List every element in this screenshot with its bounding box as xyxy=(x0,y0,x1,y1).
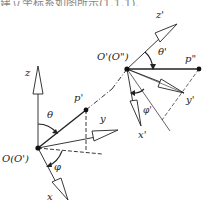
point-p-double-prime xyxy=(197,67,202,72)
origin-prime-label: O'(O") xyxy=(97,51,129,62)
coordinate-diagram: z y x O(O') p' θ φ z' y' x' O'(O") p" θ'… xyxy=(0,0,212,206)
link-dashdot-line xyxy=(86,89,112,110)
x-prime-axis-label: x' xyxy=(138,129,146,140)
x-axis-label: x xyxy=(47,191,53,202)
origin-point xyxy=(35,145,40,150)
x-prime-axis-arrow-icon xyxy=(130,100,141,126)
phi-prime-label: φ' xyxy=(143,105,152,115)
z-prime-axis-label: z' xyxy=(155,9,164,20)
origin-prime-point xyxy=(124,66,129,71)
transformed-dashdot-line xyxy=(112,69,127,89)
theta-label: θ xyxy=(47,109,53,120)
y-prime-axis-arrow-icon xyxy=(158,79,184,93)
projection-line xyxy=(38,148,102,154)
y-axis-label: y xyxy=(99,113,106,124)
z-prime-axis-arrow-icon xyxy=(155,24,177,42)
y-axis-arrow-icon xyxy=(92,130,118,141)
point-p-prime xyxy=(84,108,89,113)
origin-label: O(O') xyxy=(2,153,29,164)
y-prime-axis-label: y' xyxy=(185,94,194,105)
z-axis-label: z xyxy=(24,67,31,78)
phi-label: φ xyxy=(54,161,61,172)
point-p-double-prime-label: p" xyxy=(185,53,196,64)
vector-o-p-prime xyxy=(38,110,86,148)
x-axis-arrow-icon xyxy=(52,178,68,200)
z-axis-arrow-icon xyxy=(33,66,43,94)
point-p-prime-label: p' xyxy=(74,92,83,103)
theta-prime-label: θ' xyxy=(158,46,167,57)
y-axis xyxy=(38,137,96,148)
x-prime-axis xyxy=(127,69,133,103)
